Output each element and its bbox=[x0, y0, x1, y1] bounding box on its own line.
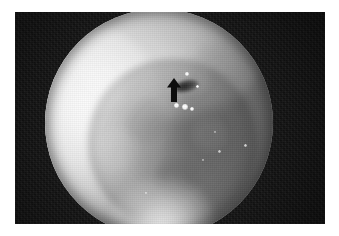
photo-frame bbox=[15, 12, 325, 224]
screenshot-canvas bbox=[0, 0, 339, 236]
arrow-marker bbox=[166, 78, 182, 102]
up-arrow-icon bbox=[167, 78, 181, 102]
endoscope-field-of-view bbox=[45, 12, 273, 224]
